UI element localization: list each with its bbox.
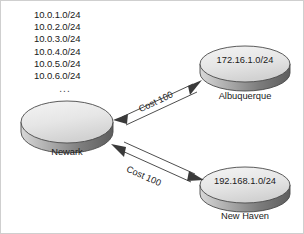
albuquerque-network-label: 172.16.1.0/24 — [200, 55, 290, 65]
subnet-item: 10.0.5.0/24 — [34, 58, 106, 70]
node-albuquerque[interactable] — [200, 46, 290, 91]
newhaven-network-label: 192.168.1.0/24 — [200, 176, 290, 186]
newhaven-node-caption: New Haven — [199, 211, 291, 221]
node-newark[interactable] — [21, 101, 113, 153]
newark-node-caption: Newark — [21, 147, 113, 157]
subnet-item: 10.0.3.0/24 — [34, 33, 106, 45]
network-diagram: 10.0.1.0/24 10.0.2.0/24 10.0.3.0/24 10.0… — [0, 0, 304, 234]
albuquerque-node-caption: Albuquerque — [199, 91, 291, 101]
newark-disc-top — [21, 101, 113, 143]
subnet-item: 10.0.4.0/24 — [34, 46, 106, 58]
subnet-list: 10.0.1.0/24 10.0.2.0/24 10.0.3.0/24 10.0… — [34, 9, 106, 95]
subnet-list-ellipsis: ... — [34, 83, 96, 95]
subnet-item: 10.0.6.0/24 — [34, 70, 106, 82]
subnet-item: 10.0.2.0/24 — [34, 21, 106, 33]
node-newhaven[interactable] — [200, 167, 290, 212]
subnet-item: 10.0.1.0/24 — [34, 9, 106, 21]
